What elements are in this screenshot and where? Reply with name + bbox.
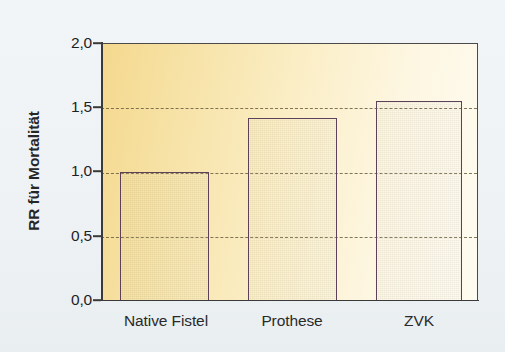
y-axis-tick-labels: 2,0 1,5 1,0 0,5 0,0 bbox=[46, 0, 92, 352]
y-tick-mark bbox=[93, 170, 101, 172]
category-label-zvk: ZVK bbox=[319, 312, 505, 330]
y-tick-label: 1,5 bbox=[46, 98, 92, 116]
y-tick-mark bbox=[93, 299, 101, 301]
y-axis-title-text: RR für Mortalität bbox=[25, 111, 43, 231]
bar-prothese[interactable] bbox=[248, 118, 337, 300]
bar-zvk[interactable] bbox=[376, 101, 462, 300]
y-axis-line bbox=[101, 42, 103, 301]
y-tick-label: 2,0 bbox=[46, 34, 92, 52]
y-tick-mark bbox=[93, 106, 101, 108]
y-axis-title: RR für Mortalität bbox=[22, 40, 46, 302]
bar-native-fistel[interactable] bbox=[120, 172, 209, 301]
y-tick-label: 0,0 bbox=[46, 291, 92, 309]
y-tick-mark bbox=[93, 235, 101, 237]
y-tick-label: 0,5 bbox=[46, 227, 92, 245]
y-tick-mark bbox=[93, 42, 101, 44]
plot-area bbox=[101, 43, 478, 300]
chart-figure: RR für Mortalität 2,0 1,5 1,0 0,5 0,0 Na… bbox=[0, 0, 505, 352]
x-axis-line bbox=[101, 300, 479, 302]
y-tick-label: 1,0 bbox=[46, 162, 92, 180]
